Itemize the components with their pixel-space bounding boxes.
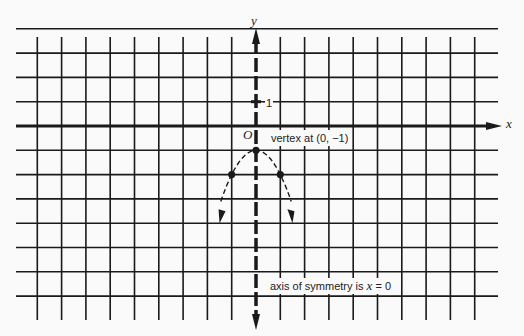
- right-arrow-icon: [287, 209, 294, 223]
- axis-of-symmetry-text: axis of symmetry is: [270, 280, 367, 292]
- x-axis-arrow-icon: [486, 122, 502, 130]
- y-axis-label: y: [251, 14, 257, 28]
- plotted-point: [252, 147, 259, 154]
- axis-of-symmetry-annotation: axis of symmetry is x = 0: [266, 278, 395, 294]
- axis-of-symmetry-value: = 0: [372, 280, 391, 292]
- coordinate-plane: [0, 0, 524, 336]
- tick-label-1: 1: [265, 96, 273, 110]
- axes: [16, 28, 502, 330]
- plotted-point: [277, 171, 284, 178]
- x-axis-label: x: [506, 117, 512, 131]
- plotted-point: [228, 171, 235, 178]
- vertex-annotation: vertex at (0, −1): [268, 130, 351, 146]
- y-axis-arrow-down-icon: [252, 314, 260, 330]
- left-arrow-icon: [219, 209, 226, 223]
- y-axis-arrow-up-icon: [252, 28, 260, 44]
- origin-label: O: [243, 128, 252, 142]
